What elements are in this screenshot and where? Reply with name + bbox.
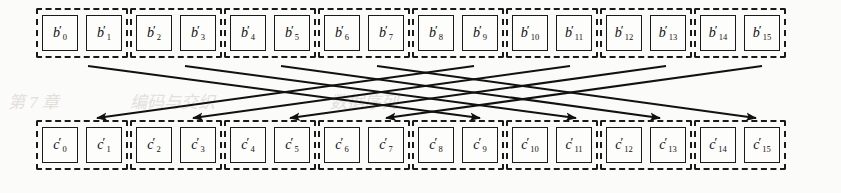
arrow-3-to-7 <box>377 66 756 118</box>
cell-label: c′3 <box>191 138 204 152</box>
cell-label: c′1 <box>97 138 110 152</box>
group-c-prime-row-6: c′12c′13 <box>600 120 692 170</box>
cell-label: b′8 <box>429 26 443 40</box>
cell-b-prime-4[interactable]: b′4 <box>230 15 266 51</box>
cell-label: b′3 <box>191 26 205 40</box>
group-c-prime-row-0: c′0c′1 <box>36 120 128 170</box>
cell-label: b′6 <box>335 26 349 40</box>
cell-b-prime-8[interactable]: b′8 <box>418 15 454 51</box>
cell-c-prime-8[interactable]: c′8 <box>418 127 454 163</box>
cell-c-prime-15[interactable]: c′15 <box>744 127 780 163</box>
group-b-prime-row-1: b′2b′3 <box>130 8 222 58</box>
group-c-prime-row-3: c′6c′7 <box>318 120 410 170</box>
group-c-prime-row-4: c′8c′9 <box>412 120 504 170</box>
group-b-prime-row-3: b′6b′7 <box>318 8 410 58</box>
cell-c-prime-4[interactable]: c′4 <box>230 127 266 163</box>
cell-c-prime-6[interactable]: c′6 <box>324 127 360 163</box>
cell-label: b′10 <box>521 26 539 40</box>
cell-label: b′11 <box>565 26 583 40</box>
cell-label: c′13 <box>659 138 677 152</box>
cell-label: b′12 <box>615 26 633 40</box>
cell-b-prime-3[interactable]: b′3 <box>180 15 216 51</box>
cell-b-prime-7[interactable]: b′7 <box>368 15 404 51</box>
group-b-prime-row-6: b′12b′13 <box>600 8 692 58</box>
cell-c-prime-2[interactable]: c′2 <box>136 127 172 163</box>
cell-c-prime-10[interactable]: c′10 <box>512 127 548 163</box>
cell-label: b′1 <box>97 26 111 40</box>
cell-c-prime-0[interactable]: c′0 <box>42 127 78 163</box>
cell-label: c′0 <box>53 138 66 152</box>
arrow-2-to-6 <box>281 66 660 118</box>
cell-b-prime-0[interactable]: b′0 <box>42 15 78 51</box>
group-b-prime-row-0: b′0b′1 <box>36 8 128 58</box>
group-b-prime-row-4: b′8b′9 <box>412 8 504 58</box>
cell-label: c′10 <box>521 138 539 152</box>
cell-label: b′14 <box>709 26 727 40</box>
group-b-prime-row-7: b′14b′15 <box>694 8 786 58</box>
group-b-prime-row-2: b′4b′5 <box>224 8 316 58</box>
background-bleed-mid: 编码与交织 <box>130 88 215 113</box>
cell-c-prime-3[interactable]: c′3 <box>180 127 216 163</box>
figure-canvas: 第 7 章 编码与交织 数据序列 b′0b′1b′2b′3b′4b′5b′6b′… <box>0 0 841 193</box>
group-c-prime-row-1: c′2c′3 <box>130 120 222 170</box>
cell-label: c′6 <box>335 138 348 152</box>
cell-label: c′15 <box>753 138 771 152</box>
cell-c-prime-14[interactable]: c′14 <box>700 127 736 163</box>
arrow-4-to-0 <box>97 66 474 118</box>
group-b-prime-row-5: b′10b′11 <box>506 8 598 58</box>
cell-label: c′12 <box>615 138 633 152</box>
background-bleed-right: 数据序列 <box>330 88 398 113</box>
background-bleed-left: 第 7 章 <box>8 88 59 113</box>
cell-label: b′13 <box>659 26 677 40</box>
cell-b-prime-5[interactable]: b′5 <box>274 15 310 51</box>
cell-c-prime-13[interactable]: c′13 <box>650 127 686 163</box>
cell-b-prime-14[interactable]: b′14 <box>700 15 736 51</box>
cell-label: c′8 <box>429 138 442 152</box>
arrow-5-to-1 <box>193 66 570 118</box>
cell-b-prime-12[interactable]: b′12 <box>606 15 642 51</box>
arrow-0-to-4 <box>88 66 480 118</box>
group-c-prime-row-7: c′14c′15 <box>694 120 786 170</box>
cell-c-prime-7[interactable]: c′7 <box>368 127 404 163</box>
group-c-prime-row-5: c′10c′11 <box>506 120 598 170</box>
arrow-6-to-2 <box>290 66 666 118</box>
cell-label: b′15 <box>753 26 771 40</box>
cell-b-prime-13[interactable]: b′13 <box>650 15 686 51</box>
cell-c-prime-12[interactable]: c′12 <box>606 127 642 163</box>
cell-label: c′9 <box>473 138 486 152</box>
cell-label: b′2 <box>147 26 161 40</box>
cell-b-prime-9[interactable]: b′9 <box>462 15 498 51</box>
cell-b-prime-15[interactable]: b′15 <box>744 15 780 51</box>
cell-label: b′5 <box>285 26 299 40</box>
cell-label: b′4 <box>241 26 255 40</box>
arrow-7-to-3 <box>386 66 762 118</box>
cell-b-prime-2[interactable]: b′2 <box>136 15 172 51</box>
cell-b-prime-10[interactable]: b′10 <box>512 15 548 51</box>
cell-label: c′14 <box>709 138 727 152</box>
cell-label: c′7 <box>379 138 392 152</box>
cell-b-prime-11[interactable]: b′11 <box>556 15 592 51</box>
cell-label: b′9 <box>473 26 487 40</box>
top-row: b′0b′1b′2b′3b′4b′5b′6b′7b′8b′9b′10b′11b′… <box>36 8 786 58</box>
cell-c-prime-9[interactable]: c′9 <box>462 127 498 163</box>
cell-label: c′5 <box>285 138 298 152</box>
cell-c-prime-11[interactable]: c′11 <box>556 127 592 163</box>
cell-label: b′7 <box>379 26 393 40</box>
arrow-1-to-5 <box>185 66 576 118</box>
cell-label: c′4 <box>241 138 254 152</box>
cell-label: c′2 <box>147 138 160 152</box>
cell-label: c′11 <box>565 138 582 152</box>
cell-b-prime-1[interactable]: b′1 <box>86 15 122 51</box>
group-c-prime-row-2: c′4c′5 <box>224 120 316 170</box>
cell-label: b′0 <box>53 26 67 40</box>
cell-c-prime-1[interactable]: c′1 <box>86 127 122 163</box>
bottom-row: c′0c′1c′2c′3c′4c′5c′6c′7c′8c′9c′10c′11c′… <box>36 120 786 170</box>
cell-c-prime-5[interactable]: c′5 <box>274 127 310 163</box>
cell-b-prime-6[interactable]: b′6 <box>324 15 360 51</box>
